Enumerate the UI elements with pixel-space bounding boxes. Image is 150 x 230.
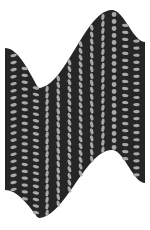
pattern-dot — [112, 54, 117, 59]
pattern-dot — [112, 33, 117, 38]
wave-band-illustration — [0, 0, 150, 230]
pattern-dot — [112, 124, 117, 129]
pattern-dot — [112, 131, 117, 136]
pattern-dot — [112, 145, 117, 150]
pattern-dot — [112, 68, 117, 73]
pattern-dot — [112, 89, 117, 94]
pattern-dot — [112, 96, 117, 101]
pattern-dot — [112, 19, 117, 24]
pattern-dot — [112, 110, 117, 115]
pattern-dot — [112, 82, 117, 87]
pattern-dot — [112, 138, 117, 143]
pattern-dot — [112, 61, 117, 66]
pattern-dot — [112, 47, 117, 52]
pattern-dot — [112, 75, 117, 80]
pattern-dot — [112, 12, 117, 17]
pattern-dot — [112, 117, 117, 122]
pattern-dot — [112, 103, 117, 108]
pattern-dot — [112, 26, 117, 31]
pattern-dot — [112, 40, 117, 45]
wave-dot-graphic — [0, 0, 150, 230]
